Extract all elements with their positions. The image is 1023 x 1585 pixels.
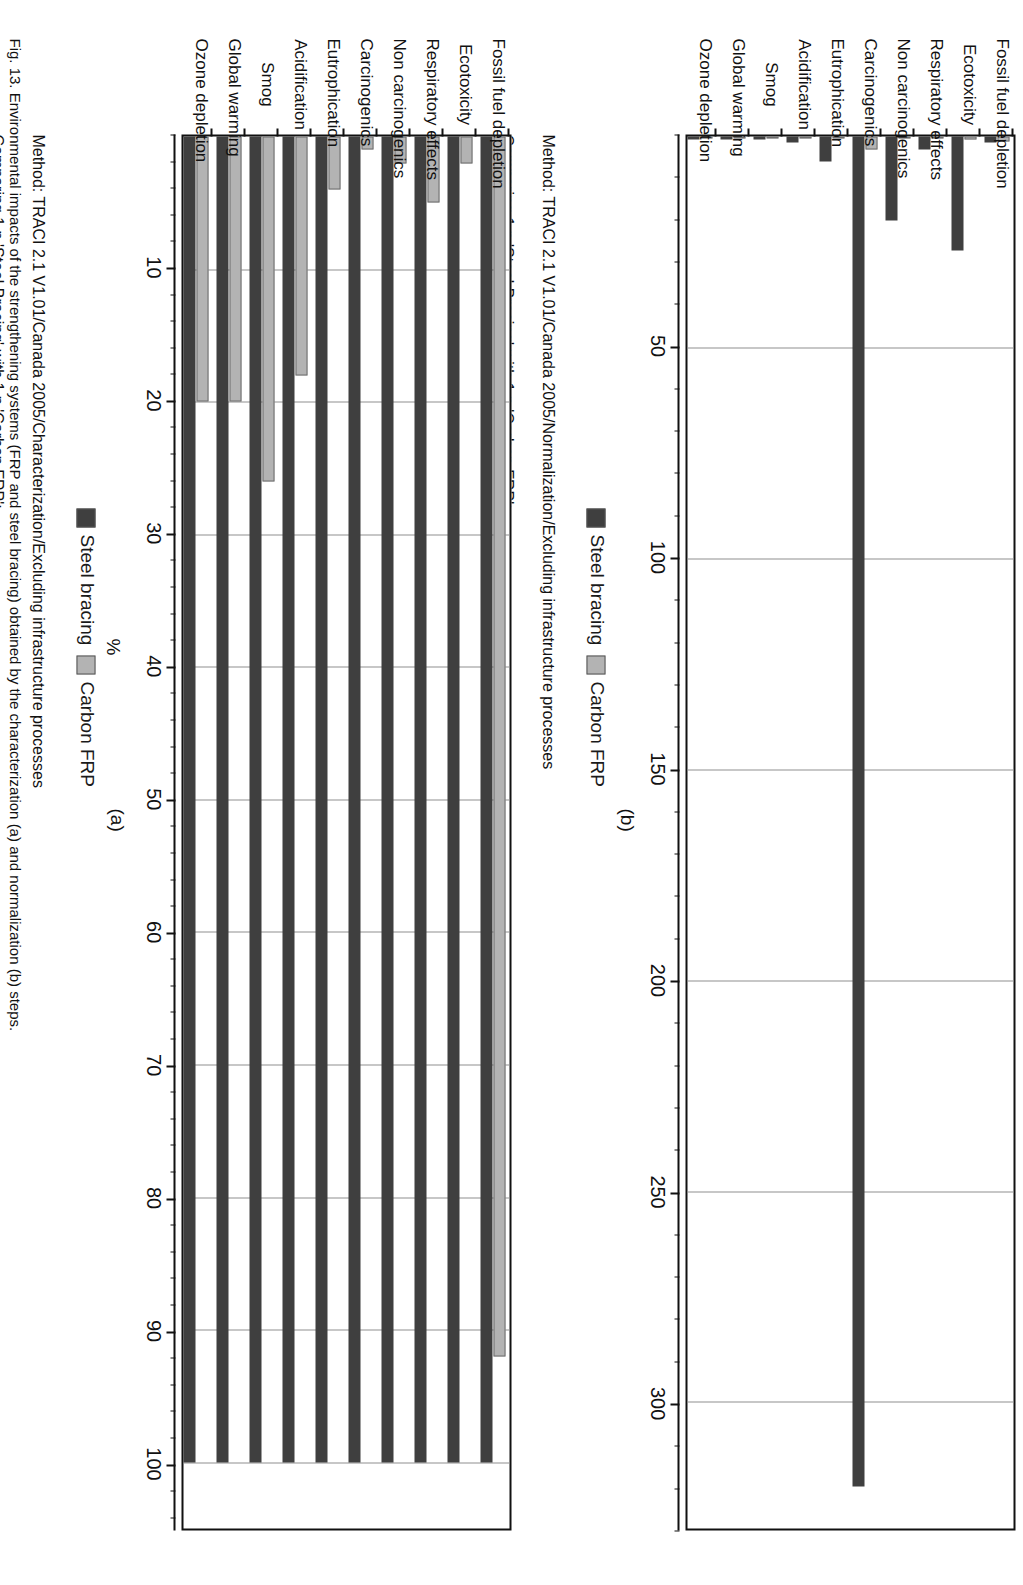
x-axis-minor-tick — [674, 1488, 679, 1489]
category-label: Ozone depletion — [192, 38, 210, 130]
x-axis-minor-tick — [170, 240, 175, 241]
x-axis-minor-tick — [170, 1224, 175, 1225]
legend-swatch-frp-icon — [77, 655, 96, 674]
legend-label-frp: Carbon FRP — [75, 681, 97, 787]
x-axis-minor-tick — [674, 1065, 679, 1066]
x-axis-major-tick — [166, 932, 175, 934]
legend-swatch-steel-icon — [77, 508, 96, 527]
x-axis-minor-tick — [170, 559, 175, 560]
x-axis-major-tick — [166, 400, 175, 402]
x-axis-minor-tick — [170, 134, 175, 135]
x-axis-tick-label: 60 — [141, 921, 164, 943]
legend-a: Steel bracing Carbon FRP — [75, 508, 97, 787]
x-axis-minor-tick — [170, 214, 175, 215]
gridline — [183, 931, 509, 932]
category-label: Smog — [258, 38, 276, 130]
category-labels-b: Ozone depletionGlobal warmingSmogAcidifi… — [685, 38, 1015, 134]
x-axis-line — [173, 134, 175, 1530]
bar-carbon-frp — [965, 136, 976, 139]
plot-area-a — [181, 134, 511, 1530]
method-line-1-b: Method: TRACI 2.1 V1.01/Canada 2005/Norm… — [536, 134, 556, 769]
x-axis-tick-label: 30 — [141, 522, 164, 544]
category-label: Eutrophication — [324, 38, 342, 130]
bar-carbon-frp — [197, 136, 208, 401]
x-axis-minor-tick — [674, 388, 679, 389]
x-axis-major-tick — [670, 1403, 679, 1405]
category-label: Eutrophication — [828, 38, 846, 130]
x-axis-minor-tick — [170, 1118, 175, 1119]
legend-item-frp-a: Carbon FRP — [75, 655, 97, 787]
x-axis-minor-tick — [674, 303, 679, 304]
bar-steel-bracing — [183, 136, 194, 1462]
x-axis-minor-tick — [674, 261, 679, 262]
x-axis-minor-tick — [170, 1437, 175, 1438]
method-line-1-a: Method: TRACI 2.1 V1.01/Canada 2005/Char… — [26, 134, 46, 787]
x-axis-minor-tick — [674, 684, 679, 685]
x-axis-minor-tick — [170, 639, 175, 640]
legend-label-frp: Carbon FRP — [585, 681, 607, 787]
gridline — [687, 980, 1013, 981]
x-axis-minor-tick — [674, 1107, 679, 1108]
x-axis-minor-tick — [674, 1022, 679, 1023]
x-axis-minor-tick — [170, 1357, 175, 1358]
category-label: Fossil fuel depletion — [489, 38, 507, 130]
x-axis-minor-tick — [674, 1276, 679, 1277]
chart-panel-a: 102030405060708090100 Ozone depletionGlo… — [21, 38, 511, 1548]
x-axis-tick-label: 90 — [141, 1319, 164, 1341]
bar-steel-bracing — [480, 136, 491, 1462]
gridline — [183, 1064, 509, 1065]
x-axis-tick-label: 100 — [645, 540, 668, 573]
x-axis-minor-tick — [674, 515, 679, 516]
x-axis-major-tick — [166, 1065, 175, 1067]
panel-letter-b: (b) — [615, 808, 637, 831]
category-label: Ecotoxicity — [960, 38, 978, 130]
x-axis-minor-tick — [170, 347, 175, 348]
x-axis-tick-label: 70 — [141, 1054, 164, 1076]
x-axis-minor-tick — [674, 176, 679, 177]
x-axis-major-tick — [166, 533, 175, 535]
legend-label-steel: Steel bracing — [75, 534, 97, 645]
x-axis-major-tick — [166, 267, 175, 269]
x-axis-minor-tick — [674, 219, 679, 220]
bar-steel-bracing — [447, 136, 458, 1462]
x-axis-tick-label: 300 — [645, 1386, 668, 1419]
x-axis-minor-tick — [674, 1445, 679, 1446]
x-axis-major-tick — [670, 769, 679, 771]
x-axis-minor-tick — [170, 187, 175, 188]
bar-steel-bracing — [786, 136, 797, 142]
bar-carbon-frp — [767, 136, 778, 138]
x-axis-tick-label: 10 — [141, 256, 164, 278]
x-axis-minor-tick — [674, 938, 679, 939]
x-axis-minor-tick — [170, 1038, 175, 1039]
x-axis-tick-label: 80 — [141, 1186, 164, 1208]
x-axis-major-tick — [166, 799, 175, 801]
x-axis-tick-label: 250 — [645, 1175, 668, 1208]
bar-carbon-frp — [263, 136, 274, 481]
method-line-2-a: Comparing 1 p 'Steel Bracing' with 1 p '… — [0, 134, 6, 787]
x-axis-minor-tick — [170, 453, 175, 454]
bar-steel-bracing — [414, 136, 425, 1462]
plot-frame-b — [685, 134, 1015, 1530]
x-axis-major-tick — [670, 557, 679, 559]
bar-steel-bracing — [249, 136, 260, 1462]
x-axis-tick-label: 50 — [141, 788, 164, 810]
bar-carbon-frp — [230, 136, 241, 401]
x-axis-tick-label: 20 — [141, 389, 164, 411]
scanned-figure-page: 50100150200250300 Ozone depletionGlobal … — [0, 0, 1023, 1585]
x-axis-minor-tick — [170, 506, 175, 507]
category-label: Respiratory effects — [927, 38, 945, 130]
category-label: Ozone depletion — [696, 38, 714, 130]
x-axis-minor-tick — [170, 1171, 175, 1172]
x-axis-minor-tick — [170, 692, 175, 693]
x-axis-minor-tick — [170, 772, 175, 773]
bar-carbon-frp — [494, 136, 505, 1356]
category-label: Carcinogenics — [861, 38, 879, 130]
x-axis-minor-tick — [674, 642, 679, 643]
gridline — [183, 1462, 509, 1463]
bar-steel-bracing — [852, 136, 863, 1486]
x-axis-minor-tick — [170, 1144, 175, 1145]
bar-carbon-frp — [800, 136, 811, 138]
gridline — [183, 1197, 509, 1198]
x-axis-scale-b: 50100150200250300 — [623, 134, 679, 1530]
bar-steel-bracing — [282, 136, 293, 1462]
